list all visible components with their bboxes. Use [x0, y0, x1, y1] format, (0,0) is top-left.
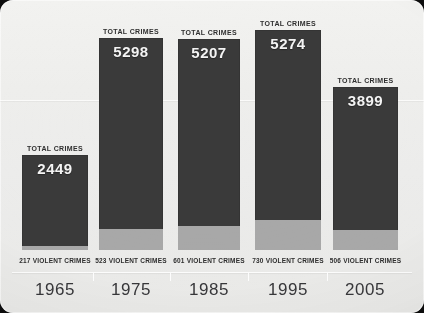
chart-plot-area: TOTAL CRIMES 2449 217 VIOLENT CRIMES TOT… [0, 0, 424, 313]
bar-column-1995: TOTAL CRIMES 5274 730 VIOLENT CRIMES [255, 0, 321, 313]
bar-column-2005: TOTAL CRIMES 3899 506 VIOLENT CRIMES [333, 0, 398, 313]
violent-segment-1975 [99, 229, 163, 250]
chart-frame: TOTAL CRIMES 2449 217 VIOLENT CRIMES TOT… [0, 0, 424, 313]
axis-label-1985: 1985 [174, 280, 244, 300]
bar-column-1965: TOTAL CRIMES 2449 217 VIOLENT CRIMES [22, 0, 88, 313]
bar-1995[interactable] [255, 30, 321, 250]
axis-line [12, 272, 412, 273]
axis-label-1965: 1965 [20, 280, 90, 300]
total-crimes-value-2005: 3899 [333, 92, 398, 109]
total-crimes-label-1985: TOTAL CRIMES [164, 29, 254, 36]
bar-column-1975: TOTAL CRIMES 5298 523 VIOLENT CRIMES [99, 0, 163, 313]
total-crimes-value-1985: 5207 [178, 44, 240, 61]
bar-1975[interactable] [99, 38, 163, 250]
total-crimes-value-1965: 2449 [22, 160, 88, 177]
bar-1985[interactable] [178, 39, 240, 250]
axis-tick [170, 273, 171, 281]
total-crimes-label-1965: TOTAL CRIMES [8, 145, 102, 152]
violent-segment-1965 [22, 246, 88, 250]
violent-segment-1995 [255, 220, 321, 250]
violent-crimes-label-2005: 506 VIOLENT CRIMES [317, 257, 414, 264]
axis-tick [93, 273, 94, 281]
bar-column-1985: TOTAL CRIMES 5207 601 VIOLENT CRIMES [178, 0, 240, 313]
total-crimes-value-1995: 5274 [255, 35, 321, 52]
axis-label-1995: 1995 [253, 280, 323, 300]
violent-segment-1985 [178, 226, 240, 250]
violent-segment-2005 [333, 230, 398, 250]
axis-label-1975: 1975 [96, 280, 166, 300]
axis-tick [248, 273, 249, 281]
axis-label-2005: 2005 [330, 280, 400, 300]
total-crimes-label-1995: TOTAL CRIMES [241, 20, 335, 27]
total-crimes-label-2005: TOTAL CRIMES [319, 77, 412, 84]
axis-tick [327, 273, 328, 281]
x-axis: 1965 1975 1985 1995 2005 [0, 272, 424, 313]
bar-2005[interactable] [333, 87, 398, 250]
total-crimes-value-1975: 5298 [99, 43, 163, 60]
